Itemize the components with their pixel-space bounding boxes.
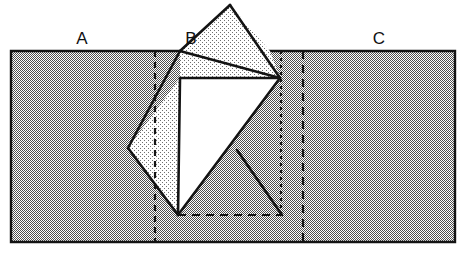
vertex-label-c: C: [373, 29, 385, 48]
vertex-label-a: A: [76, 29, 88, 48]
vertex-label-b: B: [185, 29, 196, 48]
geometry-diagram: ABC: [0, 0, 469, 256]
figure-canvas: ABC: [0, 0, 469, 256]
